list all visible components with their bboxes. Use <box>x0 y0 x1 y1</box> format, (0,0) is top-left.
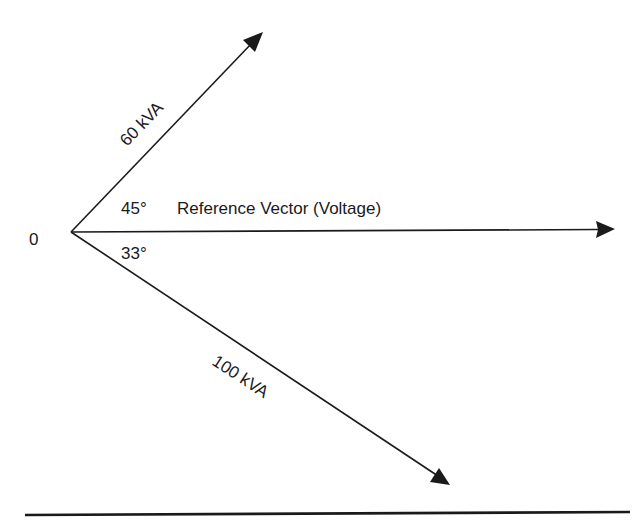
bottom-rule <box>25 512 630 515</box>
phasor-diagram: 0 Reference Vector (Voltage) 45° 33° 60 … <box>0 0 638 526</box>
origin-label: 0 <box>29 230 38 249</box>
vector-100kva <box>71 232 450 485</box>
vector-60kva-label: 60 kVA <box>116 98 167 150</box>
reference-vector-label: Reference Vector (Voltage) <box>177 199 381 218</box>
reference-arrowhead-icon <box>596 221 615 238</box>
reference-vector <box>71 221 615 238</box>
angle-33-label: 33° <box>121 244 147 263</box>
angle-45-label: 45° <box>121 199 147 218</box>
vector-100kva-arrowhead-icon <box>430 468 450 485</box>
